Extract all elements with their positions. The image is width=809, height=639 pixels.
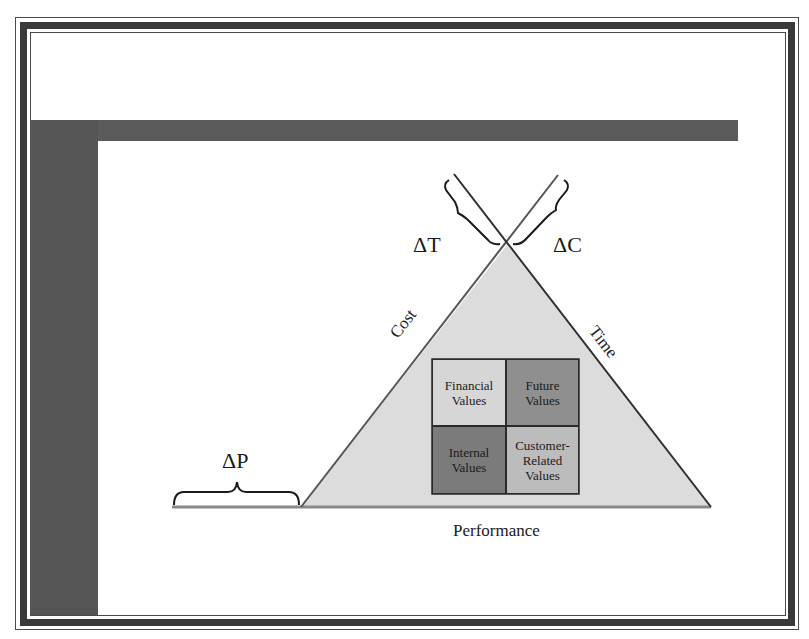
- cell-line: Values: [515, 468, 570, 483]
- cell-line: Values: [525, 393, 560, 408]
- cell-line: Related: [515, 453, 570, 468]
- delta-c-label: ΔC: [553, 232, 582, 258]
- cell-line: Customer-: [515, 438, 570, 453]
- cell-line: Values: [445, 393, 493, 408]
- cell-line: Financial: [445, 378, 493, 393]
- internal-values-cell: Internal Values: [432, 426, 506, 494]
- cell-line: Values: [449, 460, 489, 475]
- cell-line: Future: [525, 378, 560, 393]
- delta-t-label: ΔT: [413, 232, 441, 258]
- financial-values-cell: Financial Values: [432, 359, 506, 426]
- delta-t-brace: [445, 180, 500, 244]
- performance-axis-label: Performance: [453, 521, 540, 541]
- customer-related-values-cell: Customer- Related Values: [506, 426, 579, 494]
- future-values-cell: Future Values: [506, 359, 579, 426]
- cell-line: Internal: [449, 445, 489, 460]
- delta-p-brace: [174, 482, 299, 505]
- delta-p-label: ΔP: [222, 448, 248, 474]
